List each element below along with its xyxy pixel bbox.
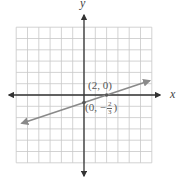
y-axis-label: y	[80, 0, 85, 9]
point-label-2-0: (2, 0)	[88, 80, 112, 91]
fraction-denominator: 3	[108, 109, 112, 116]
point-label-0-neg-two-thirds: (0, −23)	[85, 101, 117, 116]
coordinate-plane	[0, 0, 185, 185]
label-suffix: )	[113, 101, 117, 113]
x-axis-label: x	[170, 88, 175, 100]
label-prefix: (0, −	[85, 101, 106, 113]
fraction: 23	[107, 101, 113, 116]
